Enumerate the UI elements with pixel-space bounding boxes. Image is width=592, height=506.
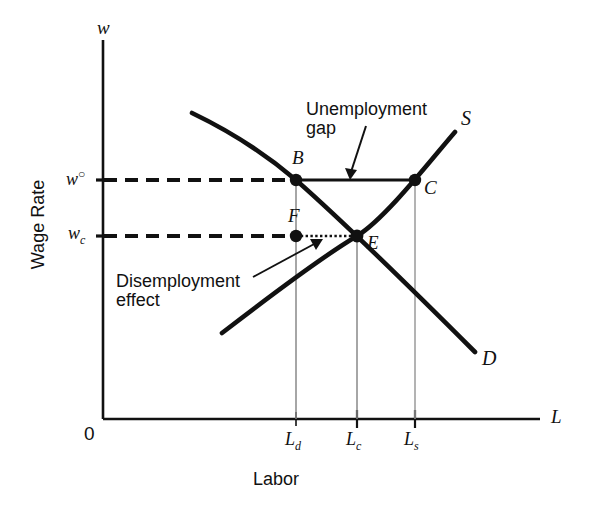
demand-curve [192,113,475,352]
x-tick-label-L-sub-d: Ld [285,430,301,452]
point-B-dot [290,174,302,186]
unemployment-gap-arrow-head [345,168,357,180]
x-tick-base-1: L [346,429,356,449]
y-tick-label-w-superscript-o: w○ [66,168,85,188]
y-axis-symbol: w [97,18,110,37]
point-label-C: C [424,178,437,197]
x-tick-label-L-sub-c: Lc [346,430,361,452]
dashed-wage-lines [104,180,296,236]
annotation-unemployment-gap: Unemployment gap [306,100,427,139]
annotation-unemployment-gap-line1: Unemployment [306,100,427,119]
x-axis-name: Labor [253,470,299,488]
y-tick-base-1: w [68,223,80,243]
x-tick-label-L-sub-s: Ls [404,430,419,452]
point-label-E: E [367,233,379,252]
annotation-disemployment-effect-line1: Disemployment [116,272,240,291]
point-label-F: F [288,206,300,225]
y-tick-sup-0: ○ [78,167,85,181]
guide-drop-lines [296,180,415,419]
y-tick-base-0: w [66,169,78,189]
supply-curve-label: S [461,108,471,128]
y-tick-sub-1: c [80,233,85,247]
x-tick-sub-1: c [356,439,361,453]
x-tick-base-2: L [404,429,414,449]
x-axis-symbol: L [551,407,562,426]
origin-label: 0 [84,424,95,443]
x-tick-sub-2: s [414,439,419,453]
annotation-disemployment-effect-line2: effect [116,291,240,310]
figure-canvas: w L 0 Wage Rate Labor w○ wc Ld Lc Ls S D… [0,0,592,506]
point-E-dot [351,230,364,243]
x-tick-base-0: L [285,429,295,449]
plot-points [290,174,421,243]
y-tick-label-w-sub-c: wc [68,224,85,246]
x-tick-sub-0: d [295,439,301,453]
y-axis-name: Wage Rate [28,165,49,285]
annotation-disemployment-effect: Disemployment effect [116,272,240,311]
demand-curve-label: D [482,348,496,368]
axes-group [103,40,540,419]
point-label-B: B [292,148,304,167]
point-C-dot [409,174,421,186]
annotation-arrows [253,126,366,277]
annotation-unemployment-gap-line2: gap [306,119,427,138]
supply-curve [222,132,455,333]
point-F-dot [290,230,302,242]
